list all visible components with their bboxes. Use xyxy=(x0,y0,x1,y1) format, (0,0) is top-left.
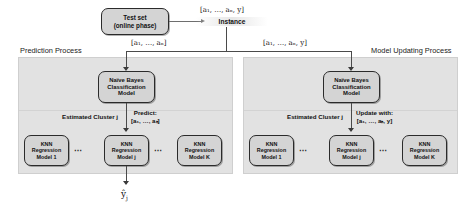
nb-right-line3: Model xyxy=(343,90,360,96)
label-update-action-right: Update with: [a₁, …, aₙ, y] xyxy=(356,109,393,125)
label-estimated-cluster-right: Estimated Cluster j xyxy=(287,113,343,121)
ellipsis-left-1: ⋯ xyxy=(74,146,83,155)
label-output-prediction: ŷj xyxy=(121,189,128,201)
knn-left-1-line3: Model 1 xyxy=(36,154,56,160)
arrowhead-output xyxy=(123,181,129,185)
diagram-canvas: Prediction Process Model Updating Proces… xyxy=(0,0,472,210)
node-knn-model-right-k[interactable]: KNN Regression Model K xyxy=(402,135,447,166)
node-naive-bayes-left[interactable]: Naïve Bayes Classification Model xyxy=(98,71,155,103)
node-knn-model-right-1[interactable]: KNN Regression Model 1 xyxy=(249,135,294,166)
edge-label-to-prediction: [a₁, …, aₙ] xyxy=(131,39,167,47)
edge-instance-stem xyxy=(226,27,227,51)
node-test-set[interactable]: Test set (online phase) xyxy=(101,8,169,35)
knn-left-k-line1: KNN xyxy=(194,141,206,147)
knn-left-k-line3: Model K xyxy=(189,154,210,160)
knn-right-k-line3: Model K xyxy=(414,154,435,160)
knn-left-1-line1: KNN xyxy=(41,141,53,147)
label-predict-action-left: Predict: [a₁, …, aₙ] xyxy=(131,109,160,125)
test-set-line1: Test set xyxy=(123,14,146,21)
test-set-line2: (online phase) xyxy=(114,22,157,29)
knn-right-j-line1: KNN xyxy=(346,141,358,147)
knn-left-j-line1: KNN xyxy=(121,141,133,147)
edge-label-to-instance: [a₁, …, aₙ, y] xyxy=(200,6,244,14)
predict-line1: Predict: xyxy=(134,109,157,116)
nb-left-line1: Naïve Bayes xyxy=(109,77,144,83)
edge-label-to-updating: [a₁, …, aₙ, y] xyxy=(263,39,307,47)
panel-title-prediction: Prediction Process xyxy=(20,46,82,55)
label-estimated-cluster-left: Estimated Cluster j xyxy=(62,113,118,121)
node-knn-model-left-j[interactable]: KNN Regression Model j xyxy=(104,135,149,166)
node-knn-model-right-j[interactable]: KNN Regression Model j xyxy=(329,135,374,166)
nb-left-line3: Model xyxy=(118,90,135,96)
knn-right-j-line3: Model j xyxy=(342,154,361,160)
node-knn-model-left-1[interactable]: KNN Regression Model 1 xyxy=(24,135,69,166)
knn-right-1-line3: Model 1 xyxy=(261,154,281,160)
node-knn-model-left-k[interactable]: KNN Regression Model K xyxy=(177,135,222,166)
edge-nb-right-to-models xyxy=(351,103,352,131)
node-naive-bayes-right[interactable]: Naïve Bayes Classification Model xyxy=(323,71,380,103)
nb-right-line2: Classification xyxy=(332,84,370,90)
update-line1: Update with: xyxy=(356,109,393,116)
knn-right-1-line1: KNN xyxy=(266,141,278,147)
panel-title-model-updating: Model Updating Process xyxy=(371,46,452,55)
ellipsis-right-2: ⋯ xyxy=(379,146,388,155)
knn-left-j-line2: Regression xyxy=(112,147,141,153)
knn-right-1-line2: Regression xyxy=(257,147,286,153)
arrowhead-into-knn-left xyxy=(123,128,129,132)
arrowhead-into-knn-right xyxy=(348,128,354,132)
nb-right-line1: Naïve Bayes xyxy=(334,77,369,83)
knn-right-j-line2: Regression xyxy=(337,147,366,153)
knn-left-1-line2: Regression xyxy=(32,147,61,153)
nb-left-line2: Classification xyxy=(107,84,145,90)
node-instance[interactable]: Instance xyxy=(196,17,268,26)
ellipsis-left-2: ⋯ xyxy=(154,146,163,155)
ellipsis-right-1: ⋯ xyxy=(299,146,308,155)
knn-left-k-line2: Regression xyxy=(185,147,214,153)
predict-line2: [a₁, …, aₙ] xyxy=(131,117,160,124)
knn-right-k-line2: Regression xyxy=(410,147,439,153)
edge-distribution-bus xyxy=(126,51,352,52)
knn-left-j-line3: Model j xyxy=(117,154,136,160)
knn-right-k-line1: KNN xyxy=(419,141,431,147)
edge-nb-left-to-models xyxy=(126,103,127,131)
update-line2: [a₁, …, aₙ, y] xyxy=(357,117,393,124)
output-subscript: j xyxy=(126,194,128,201)
